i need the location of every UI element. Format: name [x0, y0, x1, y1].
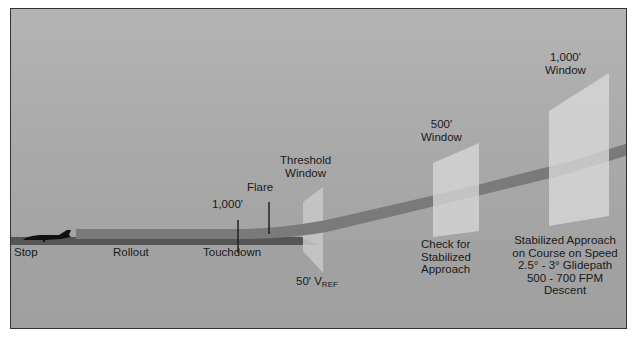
label-stop: Stop [14, 246, 38, 259]
glidepath-band [76, 139, 627, 239]
label-touchdown: Touchdown [203, 246, 261, 259]
label-window-1000: 1,000' Window [545, 51, 586, 76]
label-rollout: Rollout [113, 246, 149, 259]
label-touchdown-distance: 1,000' [212, 198, 243, 211]
label-flare: Flare [247, 181, 273, 194]
label-check-stabilized: Check for Stabilized Approach [421, 238, 471, 276]
label-vref: 50' VREF [296, 275, 338, 292]
label-threshold-window: Threshold Window [280, 154, 331, 179]
diagram-frame: Stop Rollout Touchdown 1,000' Flare Thre… [10, 8, 627, 329]
window-1000-panel [549, 73, 609, 226]
window-500-panel [433, 143, 479, 237]
label-window-500: 500' Window [421, 118, 462, 143]
label-stabilized-approach: Stabilized Approach on Course on Speed 2… [501, 234, 627, 297]
